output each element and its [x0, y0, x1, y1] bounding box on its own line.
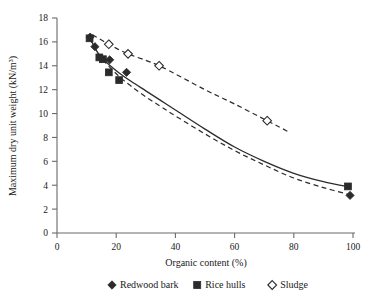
data-point-rice-hulls[interactable] — [116, 77, 123, 84]
legend-label-0: Redwood bark — [120, 279, 179, 290]
data-point-rice-hulls[interactable] — [105, 69, 112, 76]
y-tick-label: 10 — [39, 109, 49, 119]
data-point-sludge[interactable] — [124, 50, 133, 59]
legend-label-1: Rice hulls — [205, 279, 245, 290]
data-point-rice-hulls[interactable] — [99, 56, 106, 63]
x-tick-label: 80 — [289, 242, 299, 252]
data-point-redwood-bark[interactable] — [346, 191, 354, 199]
data-point-sludge[interactable] — [105, 40, 114, 49]
y-tick-label: 18 — [39, 13, 49, 23]
x-tick-label: 60 — [230, 242, 240, 252]
data-point-rice-hulls[interactable] — [345, 183, 352, 190]
y-axis-title-text: Maximum dry unit weight (kN/m³) — [7, 56, 19, 196]
x-tick-label: 20 — [111, 242, 121, 252]
data-point-sludge[interactable] — [155, 61, 164, 70]
y-tick-label: 4 — [43, 181, 48, 191]
data-markers-group — [86, 33, 354, 199]
x-tick-label: 40 — [171, 242, 181, 252]
chart-container: Maximum dry unit weight (kN/m³) 02468101… — [0, 0, 377, 303]
data-point-redwood-bark[interactable] — [91, 43, 99, 51]
chart-legend: Redwood barkRice hullsSludge — [108, 279, 309, 290]
x-tick-label: 0 — [55, 242, 60, 252]
y-tick-label: 0 — [43, 228, 48, 238]
y-tick-label: 8 — [43, 133, 48, 143]
y-tick-label: 16 — [39, 37, 49, 47]
y-tick-label: 14 — [39, 61, 49, 71]
data-point-redwood-bark[interactable] — [122, 68, 130, 76]
data-point-sludge[interactable] — [263, 116, 272, 125]
legend-marker-sludge — [268, 281, 277, 290]
y-tick-label: 2 — [43, 205, 48, 215]
y-axis-ticks: 024681012141618 — [39, 13, 58, 238]
scatter-chart: Maximum dry unit weight (kN/m³) 02468101… — [0, 0, 377, 303]
y-tick-label: 12 — [39, 85, 49, 95]
data-point-rice-hulls[interactable] — [86, 35, 93, 42]
x-tick-label: 100 — [346, 242, 361, 252]
legend-label-2: Sludge — [280, 279, 308, 290]
x-axis-title-text: Organic content (%) — [165, 257, 246, 269]
organics-fit-dashed — [90, 38, 350, 194]
y-tick-label: 6 — [43, 157, 48, 167]
organics-fit-solid — [90, 37, 350, 187]
y-axis-title: Maximum dry unit weight (kN/m³) — [7, 56, 19, 196]
legend-marker-rice-hulls — [194, 282, 201, 289]
x-axis-ticks: 020406080100 — [55, 233, 361, 252]
legend-marker-redwood-bark — [108, 281, 116, 289]
fit-curves-group — [90, 35, 350, 195]
